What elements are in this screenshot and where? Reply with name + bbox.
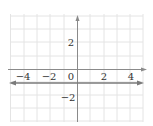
y-axis [76,15,80,122]
x-tick-label: 0 [68,71,74,82]
x-tick-label: 4 [128,71,134,82]
x-tick-label: −4 [16,71,31,82]
x-axis-arrow-icon [141,68,147,72]
grid [10,14,143,122]
y-tick-label: 2 [68,37,74,48]
coordinate-plane: −4 −2 0 2 4 2 −2 [0,0,153,126]
y-tick-label: −2 [61,92,76,103]
x-tick-label: −2 [42,71,57,82]
x-tick-label: 2 [101,71,107,82]
